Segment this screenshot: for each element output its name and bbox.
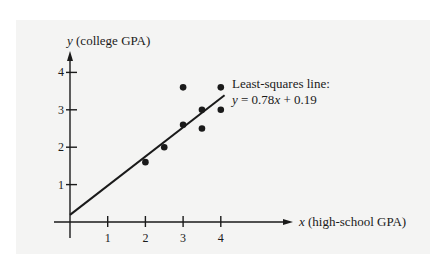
x-axis-label: x (high-school GPA) [298, 214, 406, 229]
y-tick-label: 2 [58, 140, 64, 154]
y-axis-label: y (college GPA) [65, 33, 150, 48]
data-point [218, 84, 225, 91]
data-point [142, 159, 149, 166]
y-axis-arrow-icon [67, 51, 73, 61]
regression-line [70, 95, 225, 215]
data-point [180, 84, 187, 91]
x-tick-label: 1 [105, 231, 111, 245]
x-tick-label: 2 [142, 231, 148, 245]
scatter-chart: 12341234 y (college GPA) x (high-school … [0, 0, 448, 271]
annotation-title: Least-squares line: [232, 76, 330, 91]
data-point [199, 107, 206, 114]
annotation-equation: y = 0.78x + 0.19 [230, 92, 317, 107]
data-point [218, 107, 225, 114]
data-points [142, 84, 224, 165]
x-tick-label: 3 [180, 231, 186, 245]
x-tick-label: 4 [218, 231, 224, 245]
y-tick-label: 4 [58, 65, 64, 79]
ticks: 12341234 [58, 65, 224, 245]
y-tick-label: 1 [58, 178, 64, 192]
data-point [199, 125, 206, 132]
data-point [161, 144, 168, 151]
data-point [180, 121, 187, 128]
least-squares-line [70, 95, 225, 215]
x-axis-arrow-icon [283, 219, 293, 225]
y-tick-label: 3 [58, 103, 64, 117]
